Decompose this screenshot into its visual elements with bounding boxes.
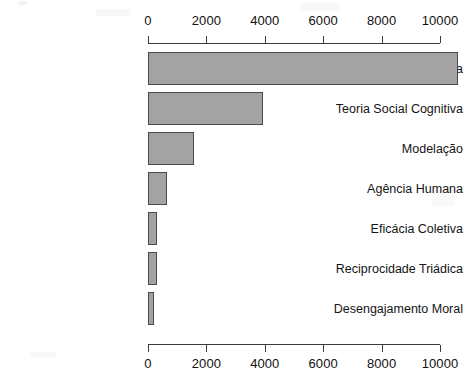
bar xyxy=(148,252,157,285)
bar xyxy=(148,52,458,85)
bar xyxy=(148,212,157,245)
bar xyxy=(148,132,194,165)
bars-group xyxy=(0,0,469,380)
bar xyxy=(148,92,263,125)
bar xyxy=(148,172,167,205)
bar-chart: 0200040006000800010000 02000400060008000… xyxy=(0,0,469,380)
bar xyxy=(148,292,154,325)
